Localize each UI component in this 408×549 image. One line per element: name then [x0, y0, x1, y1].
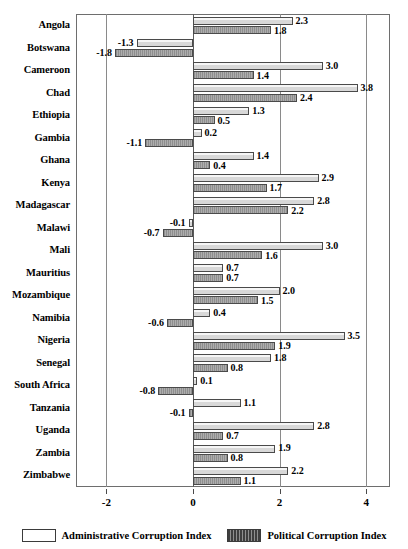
bar-admin: [193, 107, 249, 115]
chart-row: Zimbabwe2.21.1: [0, 464, 408, 487]
category-label: Cameroon: [0, 59, 70, 82]
chart-row: Kenya2.91.7: [0, 172, 408, 195]
x-tick: [280, 489, 281, 494]
category-label: Namibia: [0, 307, 70, 330]
legend-swatch-administrative-icon: [22, 529, 56, 542]
bar-political: [115, 49, 193, 57]
category-label: Ghana: [0, 149, 70, 172]
bar-value-label: 1.9: [278, 341, 291, 350]
bar-value-label: 0.1: [200, 376, 213, 385]
bar-value-label: 2.8: [317, 421, 330, 430]
category-label: Nigeria: [0, 329, 70, 352]
chart-row: Mali3.01.6: [0, 239, 408, 262]
bar-admin: [193, 84, 358, 92]
bar-political: [193, 161, 210, 169]
bar-admin: [193, 445, 275, 453]
chart-row: Madagascar2.82.2: [0, 194, 408, 217]
bar-value-label: -0.7: [144, 228, 160, 237]
bar-value-label: 2.4: [300, 93, 313, 102]
bar-political: [145, 139, 193, 147]
bar-value-label: 1.5: [261, 296, 274, 305]
x-tick: [366, 489, 367, 494]
category-label: Mozambique: [0, 284, 70, 307]
bar-admin: [193, 399, 241, 407]
bar-value-label: 2.9: [322, 173, 335, 182]
bar-value-label: 1.7: [270, 183, 283, 192]
bar-political: [193, 206, 288, 214]
bar-political: [193, 184, 267, 192]
chart-row: Ethiopia1.30.5: [0, 104, 408, 127]
x-tick-label: 2: [260, 496, 300, 509]
bar-admin: [193, 152, 254, 160]
chart-row: Namibia0.4-0.6: [0, 307, 408, 330]
bar-value-label: 0.4: [213, 308, 226, 317]
bar-admin: [189, 219, 193, 227]
bar-admin: [193, 62, 323, 70]
bar-value-label: -0.6: [148, 318, 164, 327]
bar-political: [193, 342, 275, 350]
bar-political: [163, 229, 193, 237]
legend-item-administrative: Administrative Corruption Index: [22, 529, 212, 542]
chart-row: Chad3.82.4: [0, 82, 408, 105]
bar-political: [193, 26, 271, 34]
legend-label-administrative: Administrative Corruption Index: [62, 530, 212, 541]
category-label: Madagascar: [0, 194, 70, 217]
chart-row: Mauritius0.70.7: [0, 262, 408, 285]
bar-value-label: 1.3: [252, 106, 265, 115]
chart-row: Malawi-0.1-0.7: [0, 217, 408, 240]
chart-row: Botswana-1.3-1.8: [0, 37, 408, 60]
x-tick-label: 0: [173, 496, 213, 509]
chart-row: Senegal1.80.8: [0, 352, 408, 375]
bar-value-label: -0.8: [139, 386, 155, 395]
bar-value-label: 1.6: [265, 251, 278, 260]
chart-row: Mozambique2.01.5: [0, 284, 408, 307]
bar-admin: [193, 467, 288, 475]
bar-political: [193, 274, 223, 282]
bar-value-label: 2.2: [291, 206, 304, 215]
chart-row: Uganda2.80.7: [0, 419, 408, 442]
category-label: Botswana: [0, 37, 70, 60]
bar-political: [193, 116, 215, 124]
bar-value-label: 0.7: [226, 273, 239, 282]
legend-item-political: Political Corruption Index: [227, 529, 386, 542]
legend-swatch-political-icon: [227, 529, 261, 542]
bar-admin: [193, 377, 197, 385]
bar-value-label: -0.1: [170, 218, 186, 227]
corruption-index-chart: Angola2.31.8Botswana-1.3-1.8Cameroon3.01…: [0, 0, 408, 549]
bar-political: [193, 71, 254, 79]
bar-value-label: 1.1: [244, 398, 257, 407]
bar-value-label: 2.0: [283, 286, 296, 295]
bar-value-label: 3.5: [348, 331, 361, 340]
chart-row: Ghana1.40.4: [0, 149, 408, 172]
bar-admin: [193, 264, 223, 272]
category-label: Malawi: [0, 217, 70, 240]
bar-value-label: -0.1: [170, 408, 186, 417]
bar-value-label: 0.2: [205, 128, 218, 137]
category-label: South Africa: [0, 374, 70, 397]
category-label: Ethiopia: [0, 104, 70, 127]
bar-value-label: -1.1: [126, 138, 142, 147]
bar-admin: [137, 39, 193, 47]
chart-row: Zambia1.90.8: [0, 442, 408, 465]
bar-value-label: 2.2: [291, 466, 304, 475]
bar-value-label: 1.8: [274, 26, 287, 35]
category-label: Uganda: [0, 419, 70, 442]
bar-admin: [193, 129, 202, 137]
bar-political: [193, 94, 297, 102]
category-label: Kenya: [0, 172, 70, 195]
bar-value-label: 1.1: [244, 476, 257, 485]
bar-political: [193, 477, 241, 485]
bar-admin: [193, 287, 280, 295]
category-label: Tanzania: [0, 397, 70, 420]
chart-row: Angola2.31.8: [0, 14, 408, 37]
bar-value-label: 3.0: [326, 61, 339, 70]
x-tick: [106, 489, 107, 494]
category-label: Chad: [0, 82, 70, 105]
category-label: Zimbabwe: [0, 464, 70, 487]
bar-value-label: 0.7: [226, 263, 239, 272]
chart-row: Cameroon3.01.4: [0, 59, 408, 82]
category-label: Gambia: [0, 127, 70, 150]
bar-value-label: 1.4: [257, 151, 270, 160]
bar-value-label: 1.9: [278, 443, 291, 452]
bar-value-label: 0.8: [231, 363, 244, 372]
